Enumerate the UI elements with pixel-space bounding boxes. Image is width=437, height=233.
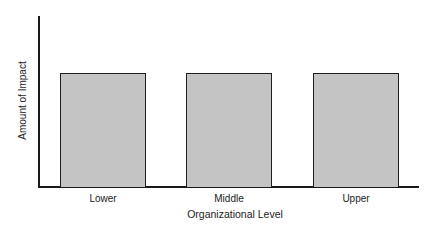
x-tick-label-lower: Lower <box>60 193 146 204</box>
y-axis-title: Amount of Impact <box>17 51 28 151</box>
x-tick-label-upper: Upper <box>313 193 399 204</box>
bar-middle <box>186 73 272 187</box>
bar-upper <box>313 73 399 187</box>
bar-lower <box>60 73 146 187</box>
x-axis-title: Organizational Level <box>120 208 350 220</box>
x-tick-label-middle: Middle <box>186 193 272 204</box>
y-axis-line <box>38 16 40 188</box>
